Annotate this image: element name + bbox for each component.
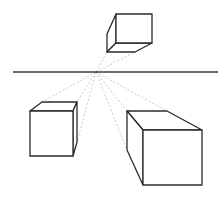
left-cube-guide-line — [77, 72, 96, 142]
top-cube-guide-line — [96, 52, 107, 72]
right-cube-guide-line — [96, 72, 127, 150]
right-cube-guide-line — [96, 72, 127, 111]
left-cube — [30, 102, 77, 156]
top-cube-guide-line — [96, 52, 135, 72]
right-cube-guide-line — [96, 72, 167, 111]
perspective-diagram — [0, 0, 222, 201]
cubes-group — [30, 14, 202, 185]
top-cube — [107, 14, 152, 52]
right-cube — [127, 111, 202, 185]
left-cube-guide-line — [77, 72, 96, 102]
left-cube-guide-line — [42, 72, 96, 102]
